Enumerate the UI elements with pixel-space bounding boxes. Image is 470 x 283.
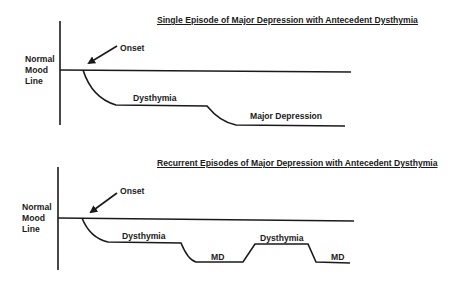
- bottom-diagram-title: Recurrent Episodes of Major Depression w…: [157, 159, 437, 168]
- top-normal-mood-line-label: Normal Mood Line: [25, 54, 55, 87]
- bottom-onset-label: Onset: [120, 187, 144, 196]
- bottom-phase-dysthymia-2-label: Dysthymia: [260, 234, 303, 243]
- top-phase-major-depression-label: Major Depression: [250, 112, 322, 121]
- top-onset-arrow-icon: [89, 46, 117, 63]
- bottom-phase-md-1-label: MD: [211, 253, 224, 262]
- top-normal-mood-line: [60, 70, 351, 72]
- diagram-canvas: [0, 0, 470, 283]
- top-diagram-title: Single Episode of Major Depression with …: [157, 16, 418, 25]
- bottom-phase-md-2-label: MD: [331, 253, 344, 262]
- bottom-normal-mood-line: [58, 218, 354, 221]
- top-onset-label: Onset: [120, 44, 144, 53]
- bottom-normal-mood-line-label: Normal Mood Line: [22, 202, 52, 235]
- top-phase-dysthymia-label: Dysthymia: [133, 94, 176, 103]
- bottom-diagram: [58, 167, 354, 270]
- bottom-onset-arrow-icon: [91, 193, 117, 212]
- bottom-phase-dysthymia-1-label: Dysthymia: [122, 232, 165, 241]
